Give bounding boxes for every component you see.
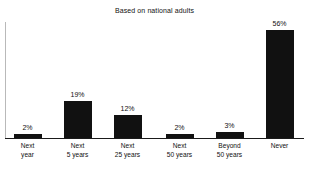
category-label-line: Next xyxy=(0,141,56,150)
category-label-line: 50 years xyxy=(202,150,258,159)
bar-chart: Based on national adults 2%19%12%2%3%56%… xyxy=(0,0,309,175)
category-label-line: Never xyxy=(252,141,308,150)
bar[interactable] xyxy=(266,30,294,138)
bar-group[interactable]: 19% xyxy=(63,0,93,138)
bar-value-label: 2% xyxy=(165,124,195,132)
category-label-line: Beyond xyxy=(202,141,258,150)
category-label-line: Next xyxy=(100,141,156,150)
bar[interactable] xyxy=(114,115,142,138)
category-label: Next5 years xyxy=(50,141,106,159)
bar[interactable] xyxy=(14,134,42,138)
bar-group[interactable]: 56% xyxy=(265,0,295,138)
bar-group[interactable]: 12% xyxy=(113,0,143,138)
bar-group[interactable]: 3% xyxy=(215,0,245,138)
bar-value-label: 19% xyxy=(63,91,93,99)
category-label-line: 25 years xyxy=(100,150,156,159)
category-label-line: Next xyxy=(152,141,208,150)
category-label-line: 50 years xyxy=(152,150,208,159)
category-label: Next25 years xyxy=(100,141,156,159)
category-label: Never xyxy=(252,141,308,150)
bar-value-label: 3% xyxy=(215,122,245,130)
category-label: Nextyear xyxy=(0,141,56,159)
category-labels: NextyearNext5 yearsNext25 yearsNext50 ye… xyxy=(0,141,309,171)
bar[interactable] xyxy=(216,132,244,138)
bar-value-label: 2% xyxy=(13,124,43,132)
bar-value-label: 56% xyxy=(265,20,295,28)
category-label-line: year xyxy=(0,150,56,159)
category-label-line: Next xyxy=(50,141,106,150)
bar-group[interactable]: 2% xyxy=(13,0,43,138)
category-label: Next50 years xyxy=(152,141,208,159)
bar-group[interactable]: 2% xyxy=(165,0,195,138)
category-label: Beyond50 years xyxy=(202,141,258,159)
bar-value-label: 12% xyxy=(113,105,143,113)
category-label-line: 5 years xyxy=(50,150,106,159)
bars-layer: 2%19%12%2%3%56% xyxy=(0,0,309,139)
bar[interactable] xyxy=(64,101,92,138)
bar[interactable] xyxy=(166,134,194,138)
